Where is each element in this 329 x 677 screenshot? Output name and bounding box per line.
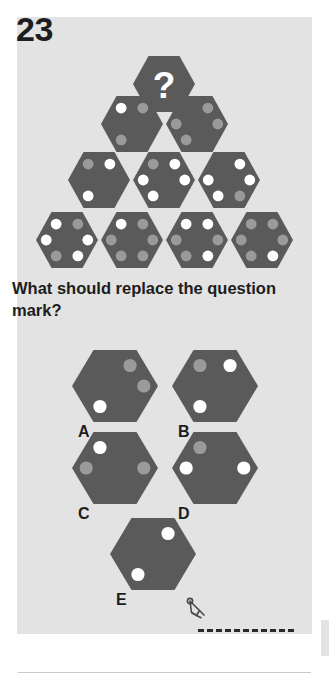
dot-right-gray [277,235,288,246]
dot-top-right-gray [267,219,278,230]
hexagon-shape [172,350,258,422]
dot-top-right-gray [72,219,83,230]
option-hexagon-B[interactable] [172,350,258,422]
dot-bottom-left-gray [246,251,257,262]
dot-top-left-white [93,441,106,454]
dot-right-gray [212,235,223,246]
option-hexagon-D[interactable] [172,432,258,504]
pencil-icon [186,597,212,619]
dot-bottom-left-white [193,400,206,413]
dot-right-gray [137,379,150,392]
dot-left-white [138,175,149,186]
dot-left-white [180,461,193,474]
pyramid-cell-r3c1 [68,152,130,208]
dot-bottom-right-gray [234,191,245,202]
dot-left-gray [80,461,93,474]
dot-top-right-white [104,159,115,170]
dot-bottom-left-white [83,191,94,202]
dot-bottom-left-gray [116,135,127,146]
dot-right-gray [212,119,223,130]
question-prompt: What should replace the question mark? [12,278,286,322]
answer-line[interactable] [198,629,294,632]
page-bottom-rule [18,672,311,673]
pyramid-cell-r4c4 [231,212,293,268]
pyramid-cell-r2c2 [166,96,228,152]
dot-bottom-right-white [202,251,213,262]
dot-top-right-white [223,359,236,372]
dot-left-gray [171,119,182,130]
dot-bottom-left-gray [181,135,192,146]
hexagon-shape [101,96,163,152]
dot-top-left-gray [83,159,94,170]
question-number: 23 [16,12,53,46]
dot-bottom-right-white [267,251,278,262]
dot-left-gray [236,235,247,246]
dot-top-left-gray [193,359,206,372]
hexagon-shape [110,518,196,590]
dot-top-right-gray [137,219,148,230]
dot-right-white [237,461,250,474]
dot-right-white [244,175,255,186]
pyramid-cell-r3c3 [198,152,260,208]
option-hexagon-A[interactable] [72,350,158,422]
dot-top-left-gray [148,159,159,170]
dot-top-left-white [181,219,192,230]
option-label-C: C [78,506,90,522]
puzzle-page: 23 ? What should replace the question ma… [0,0,329,677]
dot-top-right-white [234,159,245,170]
dot-bottom-left-white [213,191,224,202]
dot-top-right-white [161,527,174,540]
dot-bottom-left-gray [51,251,62,262]
dot-bottom-right-gray [137,251,148,262]
dot-top-right-gray [202,103,213,114]
dot-top-left-white [116,219,127,230]
pyramid-cell-r4c3 [166,212,228,268]
option-hexagon-C[interactable] [72,432,158,504]
dot-bottom-right-white [72,251,83,262]
option-label-E: E [116,592,127,608]
pyramid-cell-r4c1 [36,212,98,268]
dot-top-left-gray [193,441,206,454]
dot-top-right-white [169,159,180,170]
hexagon-shape [68,152,130,208]
dot-left-gray [171,235,182,246]
dot-left-white [41,235,52,246]
dot-top-right-white [202,219,213,230]
card-right-edge [321,620,329,656]
pyramid-cell-r3c2 [133,152,195,208]
pyramid-cell-r2c1 [101,96,163,152]
dot-top-left-white [116,103,127,114]
dot-top-right-gray [123,359,136,372]
dot-right-gray [137,461,150,474]
dot-top-left-white [51,219,62,230]
pyramid-cell-r4c2 [101,212,163,268]
dot-top-left-gray [246,219,257,230]
dot-right-white [179,175,190,186]
dot-top-right-gray [137,103,148,114]
dot-right-white [82,235,93,246]
dot-bottom-left-white [131,568,144,581]
option-hexagon-E[interactable] [110,518,196,590]
dot-left-gray [106,235,117,246]
dot-bottom-left-white [93,400,106,413]
dot-right-gray [147,235,158,246]
dot-bottom-left-gray [181,251,192,262]
dot-left-white [203,175,214,186]
dot-bottom-left-gray [116,251,127,262]
dot-bottom-left-white [148,191,159,202]
